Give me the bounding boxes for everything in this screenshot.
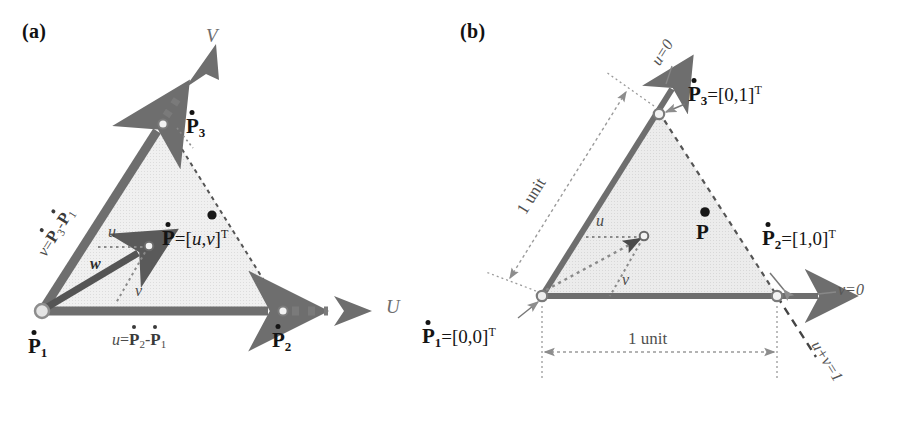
interior-point-u-a: u xyxy=(192,228,202,249)
vertex-label-p2-base-a: P xyxy=(272,330,285,351)
point-marker-p-a xyxy=(207,210,216,219)
vertex-label-p2-transpose-b: T xyxy=(828,227,835,241)
vertex-label-p2-b: P2=[1,0]T xyxy=(762,228,836,251)
vertex-marker-p1-a xyxy=(35,304,49,318)
interior-point-p-symbol-a: P xyxy=(162,228,175,249)
scalar-label-u-a: u xyxy=(108,224,116,240)
vertex-marker-p3-a xyxy=(158,119,167,128)
triangle-fill-b xyxy=(542,112,777,296)
interior-point-label-b: P xyxy=(696,222,709,243)
vertex-label-p2-eq-b: = xyxy=(781,228,792,249)
interior-sample-marker-b xyxy=(640,232,649,241)
scalar-label-v-a: v xyxy=(135,283,142,299)
vertex-label-p1-base-b: P xyxy=(422,326,435,347)
leader-p2-b xyxy=(770,273,784,290)
vertex-label-p1-b: P1=[0,0]T xyxy=(422,326,496,349)
edge-vector-u-symbol: u xyxy=(112,331,120,348)
axis-label-v-a: V xyxy=(206,26,218,45)
vertex-label-p3-base-b: P xyxy=(688,84,701,105)
vertex-label-p1-eq-b: = xyxy=(441,326,452,347)
triangle-fill-a xyxy=(42,122,283,311)
vertex-label-p1-value-b: [0,0] xyxy=(452,326,488,347)
vertex-label-p2-base-b: P xyxy=(762,228,775,249)
axis-label-u-a: U xyxy=(386,297,400,316)
interior-point-transpose-a: T xyxy=(221,227,228,241)
vertex-label-p2-value-b: [1,0] xyxy=(792,228,828,249)
vertex-marker-p1-b xyxy=(537,291,547,301)
interior-point-p-symbol-b: P xyxy=(696,220,709,244)
point-marker-p-b xyxy=(700,207,710,217)
panel-a: (a) xyxy=(0,0,456,426)
figure-root: (a) xyxy=(0,0,913,426)
edge-vector-label-u-a: u=P2-P1 xyxy=(112,331,166,350)
leader-u0-b xyxy=(666,66,672,84)
vertex-marker-p2-b xyxy=(772,291,782,301)
leader-p3-b xyxy=(666,104,685,112)
vertex-label-p3-eq-b: = xyxy=(707,84,718,105)
edge-vector-u-term2: P xyxy=(150,331,160,348)
edge-vector-u-eq: = xyxy=(120,331,129,348)
edge-equation-v0-b: v=0 xyxy=(838,282,864,298)
interior-point-eq-a: = xyxy=(175,228,186,249)
v-axis-dotted-extension xyxy=(166,95,180,116)
w-tip-marker xyxy=(145,242,154,251)
panel-b-graphics xyxy=(440,0,913,426)
vertex-label-p1-base-a: P xyxy=(28,336,41,357)
u-axis-arrowhead xyxy=(334,296,372,326)
vertex-marker-p2-a xyxy=(278,306,287,315)
vertex-label-p2-a: P2 xyxy=(272,330,291,353)
scalar-label-u-b: u xyxy=(596,213,604,229)
interior-point-v-a: v xyxy=(206,228,214,249)
edge-vector-u-term2-sub: 1 xyxy=(161,338,167,350)
leader-p1-b xyxy=(518,302,538,318)
vertex-label-p1-transpose-b: T xyxy=(488,325,495,339)
edge-vector-u-term1: P xyxy=(129,331,139,348)
vertex-label-p1-sub-a: 1 xyxy=(41,345,48,360)
vertex-marker-p3-b xyxy=(654,109,664,119)
v-axis-arrowhead xyxy=(185,44,219,88)
scalar-label-v-b: v xyxy=(622,272,629,288)
vertex-label-p3-transpose-b: T xyxy=(754,83,761,97)
dim-ext-diag-bottom-b xyxy=(486,272,536,291)
vertex-label-p3-b: P3=[0,1]T xyxy=(688,84,762,107)
scalar-label-w-a: w xyxy=(90,256,101,272)
interior-point-label-a: P=[u,v]T xyxy=(162,228,228,249)
dimension-label-unit-horizontal-b: 1 unit xyxy=(628,330,667,347)
panel-b: (b) xyxy=(440,0,913,426)
leader-v0-b xyxy=(818,292,836,294)
vertex-label-p3-a: P3 xyxy=(186,116,205,139)
vertex-label-p2-sub-a: 2 xyxy=(285,339,292,354)
vertex-label-p3-sub-a: 3 xyxy=(199,125,206,140)
vertex-label-p3-value-b: [0,1] xyxy=(718,84,754,105)
dim-ext-diag-top-b xyxy=(606,72,654,106)
vertex-label-p1-a: P1 xyxy=(28,336,47,359)
vertex-label-p3-base-a: P xyxy=(186,116,199,137)
